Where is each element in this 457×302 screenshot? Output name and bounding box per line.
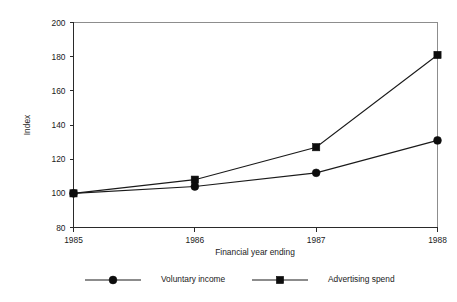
x-tick-label: 1987 <box>307 235 326 245</box>
legend-label: Advertising spend <box>328 274 395 284</box>
data-point-marker <box>434 136 442 144</box>
data-point-marker <box>434 51 441 58</box>
legend-item[interactable]: Advertising spend <box>252 274 395 284</box>
series-group <box>70 51 441 197</box>
data-point-marker <box>191 183 199 191</box>
chart-legend: Voluntary incomeAdvertising spend <box>85 274 395 284</box>
axis-lines <box>74 23 438 228</box>
line-chart: 80100120140160180200 1985198619871988 Fi… <box>0 0 457 302</box>
x-axis-ticks: 1985198619871988 <box>64 228 447 245</box>
y-tick-label: 140 <box>52 120 66 130</box>
plot-frame <box>74 23 438 228</box>
series-line <box>74 55 438 193</box>
y-tick-label: 120 <box>52 154 66 164</box>
data-point-marker <box>191 176 198 183</box>
legend-label: Voluntary income <box>161 274 226 284</box>
data-point-marker <box>313 144 320 151</box>
y-tick-label: 180 <box>52 52 66 62</box>
x-tick-label: 1988 <box>428 235 447 245</box>
series-layer <box>70 51 442 197</box>
y-axis-title: Index <box>22 114 32 135</box>
chart-canvas: 80100120140160180200 1985198619871988 Fi… <box>0 0 457 302</box>
x-axis-title: Financial year ending <box>215 247 295 257</box>
x-tick-label: 1986 <box>186 235 205 245</box>
y-tick-label: 160 <box>52 86 66 96</box>
data-point-marker <box>276 276 283 283</box>
series-group <box>70 136 442 197</box>
series-line <box>74 140 438 193</box>
y-tick-label: 200 <box>52 18 66 28</box>
y-tick-label: 80 <box>56 223 66 233</box>
data-point-marker <box>109 276 117 284</box>
y-tick-label: 100 <box>52 188 66 198</box>
data-point-marker <box>70 190 77 197</box>
y-axis-ticks: 80100120140160180200 <box>52 18 74 233</box>
legend-item[interactable]: Voluntary income <box>85 274 226 284</box>
x-tick-label: 1985 <box>64 235 83 245</box>
data-point-marker <box>312 169 320 177</box>
